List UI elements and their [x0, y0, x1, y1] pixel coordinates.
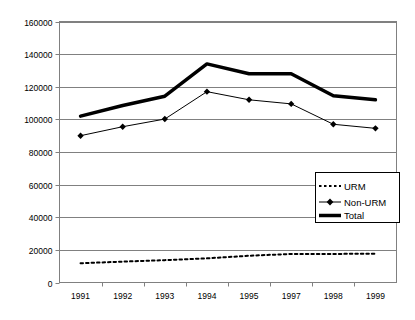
y-axis-tick-labels: 1600001400001200001000008000060000400002… [24, 18, 59, 289]
legend-label-urm: URM [344, 181, 366, 192]
y-tick-label: 20000 [29, 246, 53, 256]
x-tick-label: 1999 [366, 291, 385, 301]
x-tick-label: 1991 [71, 291, 90, 301]
y-tick-label: 140000 [24, 50, 53, 60]
y-tick-label: 160000 [24, 18, 53, 28]
x-axis-tick-labels: 19911992199319941995199719981999 [71, 291, 385, 301]
y-tick-label: 60000 [29, 181, 53, 191]
y-tick-label: 80000 [29, 148, 53, 158]
x-tick-label: 1994 [197, 291, 216, 301]
line-chart: 1600001400001200001000008000060000400002… [0, 0, 415, 320]
y-tick-label: 100000 [24, 115, 53, 125]
x-axis-ticks [103, 283, 355, 287]
legend-label-total: Total [344, 210, 364, 221]
y-tick-label: 40000 [29, 213, 53, 223]
chart-container: 1600001400001200001000008000060000400002… [0, 0, 415, 320]
x-tick-label: 1992 [113, 291, 132, 301]
x-tick-label: 1997 [282, 291, 301, 301]
y-tick-label: 0 [48, 279, 53, 289]
x-tick-label: 1993 [155, 291, 174, 301]
x-tick-label: 1995 [240, 291, 259, 301]
chart-legend[interactable]: URM Non-URM Total [316, 173, 400, 223]
x-tick-label: 1998 [324, 291, 343, 301]
legend-label-non-urm: Non-URM [344, 197, 386, 208]
y-tick-label: 120000 [24, 83, 53, 93]
